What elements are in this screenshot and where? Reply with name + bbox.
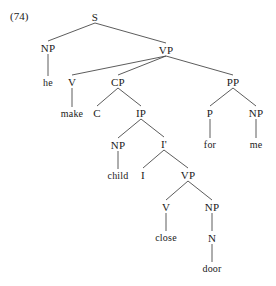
tree-edge (166, 56, 233, 75)
tree-node-cp: CP (111, 77, 125, 88)
tree-node-vp1: VP (159, 45, 173, 56)
tree-node-make: make (61, 109, 83, 119)
tree-node-np4: NP (205, 202, 219, 213)
tree-edge (188, 181, 212, 200)
tree-node-s: S (92, 12, 98, 23)
tree-node-v2: V (162, 202, 170, 213)
tree-node-n: N (208, 233, 216, 244)
tree-node-me: me (250, 140, 263, 150)
tree-node-for: for (204, 140, 216, 150)
tree-node-child: child (108, 171, 129, 181)
tree-edge (210, 88, 233, 106)
syntax-tree-figure: (74) SNPVPheVCPPPmakeCIPPNPNPI'formechil… (0, 0, 276, 286)
tree-node-v1: V (68, 77, 76, 88)
tree-edge (166, 181, 188, 200)
tree-node-he: he (43, 78, 53, 88)
tree-edge (48, 23, 95, 41)
tree-edge (72, 56, 166, 75)
tree-edge (97, 88, 118, 106)
tree-node-ip: IP (136, 108, 146, 119)
tree-node-c: C (93, 108, 101, 119)
tree-node-i: I (141, 170, 145, 181)
tree-edge (118, 119, 141, 138)
tree-node-close: close (155, 233, 177, 243)
tree-edge (233, 88, 256, 106)
tree-edge (143, 150, 164, 168)
tree-edge (164, 150, 188, 168)
tree-node-np1: NP (41, 43, 55, 54)
tree-node-door: door (202, 264, 221, 274)
tree-node-np3: NP (249, 108, 263, 119)
tree-node-ibar: I' (161, 139, 167, 150)
tree-node-p: P (207, 108, 213, 119)
tree-node-np2: NP (111, 140, 125, 151)
tree-edge (118, 56, 166, 75)
tree-node-pp: PP (227, 77, 240, 88)
tree-edge (141, 119, 164, 137)
tree-edge (118, 88, 141, 106)
tree-edge (95, 23, 166, 43)
tree-node-vp2: VP (181, 170, 195, 181)
